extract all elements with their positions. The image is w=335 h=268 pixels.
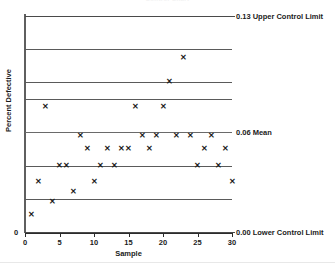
data-point: ✕	[229, 178, 236, 186]
data-point: ✕	[28, 212, 35, 220]
x-tick-25	[198, 233, 199, 237]
data-point: ✕	[97, 162, 104, 170]
x-axis-title: Sample	[25, 249, 232, 258]
x-tick-label-25: 25	[193, 238, 201, 247]
data-point: ✕	[194, 162, 201, 170]
data-point: ✕	[166, 79, 173, 87]
data-point: ✕	[125, 145, 132, 153]
x-tick-20	[163, 233, 164, 237]
data-point: ✕	[91, 178, 98, 186]
data-point: ✕	[187, 132, 194, 140]
data-point: ✕	[77, 132, 84, 140]
data-point: ✕	[208, 132, 215, 140]
x-tick-5	[60, 233, 61, 237]
gridline-0-08	[25, 99, 232, 100]
x-tick-label-5: 5	[57, 238, 61, 247]
x-tick-label-10: 10	[90, 238, 98, 247]
data-point: ✕	[84, 145, 91, 153]
y-axis-origin-label: 0	[14, 228, 18, 237]
data-point: ✕	[215, 162, 222, 170]
data-point: ✕	[160, 104, 167, 112]
data-point: ✕	[222, 145, 229, 153]
x-tick-15	[129, 233, 130, 237]
data-point: ✕	[139, 132, 146, 140]
data-point: ✕	[173, 132, 180, 140]
gridline-0-11	[25, 49, 232, 50]
data-point: ✕	[42, 104, 49, 112]
y-axis-title: Percent Defective	[4, 51, 13, 151]
x-tick-label-15: 15	[124, 238, 132, 247]
data-point: ✕	[111, 162, 118, 170]
gridline-0-09	[25, 82, 232, 83]
x-tick-0	[25, 233, 26, 237]
lower-control-limit-label: 0.00 Lower Control Limit	[236, 228, 324, 237]
gridline-0-13	[25, 16, 232, 17]
figure-bottom-rule	[0, 262, 335, 263]
chart-title: Control Chart	[0, 0, 335, 2]
data-point: ✕	[49, 198, 56, 206]
lcl-leader-line	[228, 232, 235, 233]
data-point: ✕	[180, 54, 187, 62]
upper-control-limit-label: 0.13 Upper Control Limit	[236, 12, 323, 21]
gridline-0-06	[25, 132, 232, 133]
data-point: ✕	[132, 104, 139, 112]
data-point: ✕	[153, 132, 160, 140]
data-point: ✕	[63, 162, 70, 170]
data-point: ✕	[104, 145, 111, 153]
x-tick-label-20: 20	[159, 238, 167, 247]
x-tick-label-30: 30	[228, 238, 236, 247]
control-chart-figure: Control Chart 051015202530 ✕✕✕✕✕✕✕✕✕✕✕✕✕…	[0, 0, 335, 268]
x-tick-30	[232, 233, 233, 237]
x-tick-label-0: 0	[23, 238, 27, 247]
data-point: ✕	[70, 188, 77, 196]
data-point: ✕	[35, 178, 42, 186]
x-tick-10	[94, 233, 95, 237]
mean-label: 0.06 Mean	[236, 128, 272, 137]
data-point: ✕	[201, 145, 208, 153]
ucl-leader-line	[228, 16, 235, 17]
data-point: ✕	[146, 145, 153, 153]
